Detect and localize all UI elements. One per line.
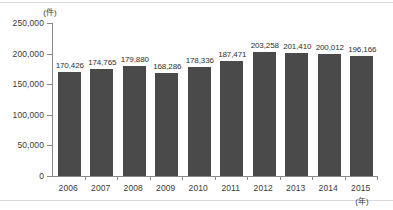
bar[interactable] [123,66,146,176]
bar-value-label: 187,471 [210,50,254,59]
bar-value-label: 196,166 [340,45,384,54]
bar-slot [188,23,211,176]
bar[interactable] [155,73,178,176]
bar[interactable] [58,72,81,176]
bar-slot [58,23,81,176]
x-axis-tick [215,176,216,180]
bar[interactable] [188,67,211,176]
bar[interactable] [285,53,308,176]
x-axis-tick [150,176,151,180]
x-axis-tick [117,176,118,180]
x-axis-tick [345,176,346,180]
x-axis-tick [182,176,183,180]
y-axis-tick [47,84,52,85]
bar[interactable] [90,69,113,176]
y-axis-tick [47,176,52,177]
bar[interactable] [220,61,243,176]
x-axis-unit-label: (年) [347,195,377,206]
y-axis-tick-label: 250,000 [0,18,44,28]
bar-slot [220,23,243,176]
y-axis-tick-label: 150,000 [0,79,44,89]
y-axis-tick-label: 50,000 [0,140,44,150]
x-axis-tick [377,176,378,180]
y-axis-tick-label: 100,000 [0,110,44,120]
bar-slot [90,23,113,176]
frame-bottom-divider [0,200,393,201]
y-axis-tick [47,145,52,146]
bar[interactable] [318,54,341,176]
y-axis-tick-label: 0 [0,171,44,181]
y-axis-tick [47,115,52,116]
bar-slot [123,23,146,176]
x-axis-tick [280,176,281,180]
y-axis-tick [47,23,52,24]
x-axis-tick [247,176,248,180]
y-axis-line [52,23,53,176]
bar-slot [155,23,178,176]
bar-chart: (件) (年) 050,000100,000150,000200,000250,… [0,0,393,210]
y-axis-tick-label: 200,000 [0,49,44,59]
bar[interactable] [350,56,373,176]
x-axis-tick [312,176,313,180]
y-axis-tick [47,54,52,55]
y-axis-unit-label: (件) [30,6,70,17]
x-axis-tick-label: 2015 [339,183,383,193]
bar[interactable] [253,52,276,176]
x-axis-tick [85,176,86,180]
frame-top-divider [0,2,393,3]
